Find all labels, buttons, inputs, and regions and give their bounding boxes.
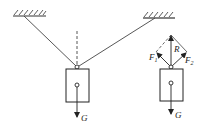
- f2-arrow: [171, 53, 186, 67]
- weight-label-left: G: [81, 113, 88, 123]
- center-of-mass-icon: [75, 83, 79, 87]
- weight-label-right: G: [175, 110, 182, 120]
- f1-label: F1: [148, 52, 158, 63]
- left-ceiling: [13, 10, 46, 16]
- resultant-label: R: [173, 44, 180, 54]
- center-of-mass-icon: [169, 81, 173, 85]
- force-diagram: G R F1 F2 G: [0, 0, 208, 128]
- right-hanging-object: G: [160, 65, 183, 120]
- force-parallelogram: R F1 F2: [148, 35, 194, 67]
- right-ceiling: [143, 12, 175, 18]
- f2-label: F2: [184, 55, 194, 66]
- left-figure-ropes: [24, 16, 155, 66]
- left-hanging-object: G: [66, 65, 89, 123]
- f1-arrow: [157, 53, 171, 67]
